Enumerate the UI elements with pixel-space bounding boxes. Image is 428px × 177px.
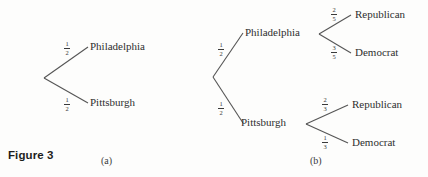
figure-container: Philadelphia Pittsburgh 1 2 1 2 (a) Phil…: [0, 0, 428, 177]
edge-label-b-philadelphia-democrat: 3 5: [327, 45, 341, 61]
edge-label-b-philadelphia-republican: 2 5: [327, 7, 341, 23]
fraction-numerator: 1: [214, 101, 228, 108]
fraction-denominator: 5: [327, 16, 341, 23]
node-b-pittsburgh: Pittsburgh: [241, 117, 286, 128]
fraction-denominator: 5: [327, 54, 341, 61]
fraction-numerator: 1: [60, 97, 74, 104]
node-b-pittsburgh-democrat: Democrat: [352, 137, 395, 148]
edge-label-b-philadelphia: 1 2: [214, 42, 228, 58]
fraction-denominator: 2: [60, 106, 74, 113]
node-b-philadelphia: Philadelphia: [245, 27, 300, 38]
fraction-numerator: 1: [214, 42, 228, 49]
edge-label-a-philadelphia: 1 2: [60, 41, 74, 57]
fraction-denominator: 3: [318, 144, 332, 151]
fraction-numerator: 2: [318, 97, 332, 104]
edge-label-a-pittsburgh: 1 2: [60, 97, 74, 113]
fraction-denominator: 2: [60, 50, 74, 57]
fraction-numerator: 3: [327, 45, 341, 52]
fraction-denominator: 3: [318, 106, 332, 113]
node-a-pittsburgh: Pittsburgh: [90, 97, 135, 108]
fraction-denominator: 2: [214, 51, 228, 58]
fraction-numerator: 1: [318, 135, 332, 142]
fraction-denominator: 2: [214, 110, 228, 117]
subcaption-a: (a): [101, 156, 112, 166]
figure-caption: Figure 3: [8, 150, 54, 162]
edge-label-b-pittsburgh-democrat: 1 3: [318, 135, 332, 151]
edge-label-b-pittsburgh: 1 2: [214, 101, 228, 117]
fraction-numerator: 2: [327, 7, 341, 14]
tree-diagram-lines: [0, 0, 428, 177]
fraction-numerator: 1: [60, 41, 74, 48]
edge-label-b-pittsburgh-republican: 2 3: [318, 97, 332, 113]
node-b-philadelphia-republican: Republican: [355, 9, 405, 20]
subcaption-b: (b): [310, 156, 322, 166]
node-a-philadelphia: Philadelphia: [90, 41, 145, 52]
node-b-philadelphia-democrat: Democrat: [355, 47, 398, 58]
node-b-pittsburgh-republican: Republican: [352, 99, 402, 110]
